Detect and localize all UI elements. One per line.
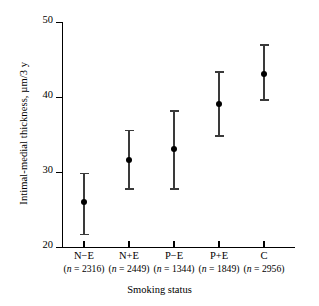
y-axis-label: Intimal-medial thickness, µm/3 y [19, 23, 30, 243]
y-tick-label: 40 [43, 90, 54, 101]
y-tick-label: 50 [43, 15, 54, 26]
x-tick-1 [128, 241, 129, 247]
error-bar-cap-lower [260, 99, 269, 100]
data-point-marker [216, 101, 222, 107]
data-point-marker [261, 71, 267, 77]
error-bar-cap-lower [125, 188, 134, 189]
data-point-marker [126, 157, 132, 163]
chart-figure: Intimal-medial thickness, µm/3 y 2030405… [0, 0, 319, 306]
x-tick-2 [173, 241, 174, 247]
error-bar-cap-upper [260, 44, 269, 45]
error-bar-cap-upper [170, 110, 179, 111]
x-tick-label-group: C(n = 2956) [219, 250, 309, 275]
x-tick-3 [218, 241, 219, 247]
y-tick-30: 30 [56, 172, 62, 173]
error-bar-cap-lower [215, 135, 224, 136]
y-axis-line [62, 22, 63, 248]
error-bar-cap-upper [80, 173, 89, 174]
y-tick-50: 50 [56, 22, 62, 23]
y-tick-40: 40 [56, 97, 62, 98]
y-tick-label: 20 [43, 240, 54, 251]
error-bar-cap-lower [170, 188, 179, 189]
x-category-label: C [219, 250, 309, 263]
data-point-marker [81, 199, 87, 205]
error-bar-cap-upper [125, 130, 134, 131]
data-point-marker [171, 146, 177, 152]
x-tick-4 [263, 241, 264, 247]
y-tick-label: 30 [43, 165, 54, 176]
error-bar-cap-upper [215, 71, 224, 72]
y-tick-20: 20 [56, 247, 62, 248]
group-size-label: (n = 2956) [219, 263, 309, 276]
error-bar-cap-lower [80, 234, 89, 235]
x-axis-line [62, 247, 295, 248]
x-axis-label: Smoking status [0, 285, 319, 296]
x-tick-0 [83, 241, 84, 247]
